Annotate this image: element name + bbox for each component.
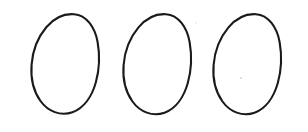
egg-drawing-svg [0,0,308,132]
figure-canvas [0,0,308,132]
paper-speck-1 [240,77,242,79]
paper-speck-2 [195,22,196,23]
